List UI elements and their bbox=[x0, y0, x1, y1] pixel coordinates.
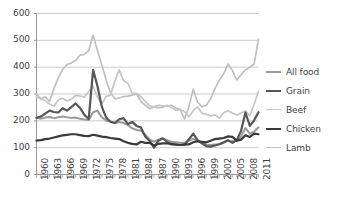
legend-swatch-grain bbox=[266, 90, 281, 92]
x-axis-tick-label: 1966 bbox=[66, 158, 76, 180]
legend-item-grain[interactable]: Grain bbox=[266, 81, 337, 100]
legend-swatch-chicken bbox=[266, 128, 281, 130]
x-axis-tick-label: 1960 bbox=[40, 158, 50, 180]
x-axis-tick-label: 1963 bbox=[53, 158, 63, 180]
x-axis-tick-label: 1993 bbox=[184, 158, 194, 180]
chart-container: 0100200300400500600 19601963196619691972… bbox=[0, 0, 337, 210]
x-axis-tick-label: 1999 bbox=[210, 158, 220, 180]
x-axis-tick-label: 1969 bbox=[79, 158, 89, 180]
gridlines bbox=[37, 14, 259, 148]
series-line-lamb bbox=[37, 35, 259, 119]
bottom-cutoff-text bbox=[2, 202, 152, 208]
legend-swatch-all-food bbox=[266, 71, 281, 73]
x-axis-tick-label: 1996 bbox=[197, 158, 207, 180]
legend-item-all-food[interactable]: All food bbox=[266, 62, 337, 81]
x-axis-tick-label: 2002 bbox=[223, 158, 233, 180]
y-axis-tick-label: 200 bbox=[2, 115, 30, 125]
legend-swatch-beef bbox=[266, 109, 281, 110]
legend-label-lamb: Lamb bbox=[286, 143, 311, 153]
legend-label-grain: Grain bbox=[286, 86, 310, 96]
x-axis-tick-label: 1984 bbox=[144, 158, 154, 180]
x-axis-tick-label: 1975 bbox=[105, 158, 115, 180]
legend-label-beef: Beef bbox=[286, 105, 306, 115]
x-axis-tick-label: 1990 bbox=[171, 158, 181, 180]
legend-label-all-food: All food bbox=[286, 67, 319, 77]
legend-label-chicken: Chicken bbox=[286, 124, 321, 134]
x-axis-tick-label: 2008 bbox=[249, 158, 259, 180]
chart-legend: All food Grain Beef Chicken Lamb bbox=[266, 62, 337, 157]
y-axis-tick-label: 300 bbox=[2, 88, 30, 98]
y-axis-tick-label: 400 bbox=[2, 61, 30, 71]
x-axis-tick-label: 1981 bbox=[131, 158, 141, 180]
x-axis-tick-label: 1987 bbox=[158, 158, 168, 180]
data-series-lines bbox=[37, 35, 259, 148]
legend-swatch-lamb bbox=[266, 147, 281, 148]
x-axis-tick-label: 2005 bbox=[236, 158, 246, 180]
legend-item-chicken[interactable]: Chicken bbox=[266, 119, 337, 138]
legend-item-beef[interactable]: Beef bbox=[266, 100, 337, 119]
y-axis-tick-label: 500 bbox=[2, 34, 30, 44]
y-axis-tick-label: 600 bbox=[2, 8, 30, 18]
x-axis-tick-label: 1972 bbox=[92, 158, 102, 180]
y-axis-tick-label: 0 bbox=[2, 169, 30, 179]
x-axis-tick-label: 1978 bbox=[118, 158, 128, 180]
x-axis-tick-label: 2011 bbox=[262, 158, 272, 180]
y-axis-tick-label: 100 bbox=[2, 142, 30, 152]
legend-item-lamb[interactable]: Lamb bbox=[266, 138, 337, 157]
